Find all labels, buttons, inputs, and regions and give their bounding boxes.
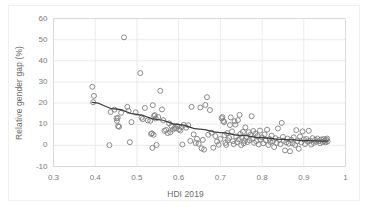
scatter-plot: [0, 0, 371, 220]
x-tick-label: 0.4: [83, 173, 107, 182]
x-tick-label: 0.8: [250, 173, 274, 182]
data-points: [90, 35, 330, 154]
y-axis-title: Relative gender gap (%): [14, 18, 24, 168]
y-tick-label: 20: [26, 98, 48, 107]
y-axis-title-wrapper: Relative gender gap (%): [14, 168, 15, 169]
y-tick-label: -10: [26, 162, 48, 171]
x-tick-label: 0.6: [167, 173, 191, 182]
chart-container: -100102030405060 0.30.40.50.60.70.80.91 …: [0, 0, 371, 220]
x-tick-label: 0.7: [208, 173, 232, 182]
y-tick-label: 10: [26, 119, 48, 128]
y-tick-label: 60: [26, 14, 48, 23]
y-tick-label: 30: [26, 77, 48, 86]
gridlines: [54, 19, 346, 167]
x-tick-label: 0.3: [42, 173, 66, 182]
plot-area-border: [54, 19, 346, 167]
y-tick-label: 40: [26, 56, 48, 65]
x-tick-label: 1: [334, 173, 358, 182]
y-tick-label: 50: [26, 35, 48, 44]
x-tick-label: 0.5: [125, 173, 149, 182]
x-tick-label: 0.9: [292, 173, 316, 182]
y-tick-label: 0: [26, 140, 48, 149]
x-axis-title: HDI 2019: [0, 189, 371, 199]
